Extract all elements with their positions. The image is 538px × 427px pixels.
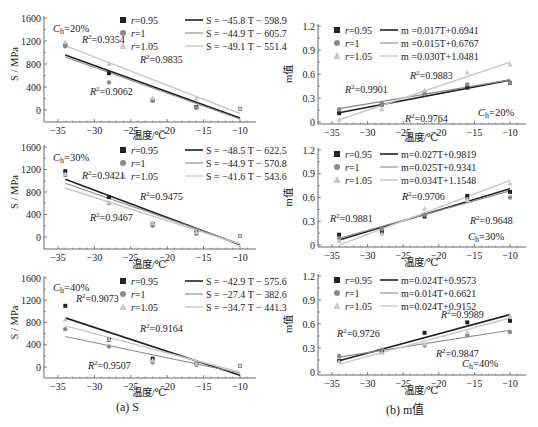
y-tick-label: 0 [36,105,41,116]
legend-circle-icon [120,291,126,297]
legend-label: r=1 [345,162,360,173]
x-tick-label: −10 [502,250,518,261]
y-tick-label: 0.3 [303,343,316,354]
y-tick-label: 0.3 [303,216,316,227]
r-squared-label: R2=0.9835 [139,53,183,65]
y-axis-label: m值 [282,187,294,206]
x-tick-label: −15 [196,381,212,392]
x-axis-label: 温度/℃ [132,386,167,398]
legend-label: r=1.05 [345,51,372,62]
x-tick-label: −10 [502,127,518,138]
x-tick-label: −15 [196,125,212,136]
y-tick-label: 1200 [21,295,41,306]
r-squared-label: R2=0.9706 [401,190,445,202]
legend-square-icon [120,147,126,153]
marker-square [337,111,341,115]
x-tick-label: −30 [87,381,103,392]
x-axis-label: 温度/℃ [132,258,167,270]
marker-circle [107,344,111,348]
marker-circle [422,92,426,96]
y-tick-label: 1.2 [303,145,316,156]
legend-fit-equation: S = −48.5 T − 622.5 [206,145,287,156]
marker-circle [337,107,341,111]
y-tick-label: 800 [26,317,41,328]
legend-circle-icon [334,290,340,296]
y-axis-label: S / MPa [9,305,20,339]
x-tick-label: −15 [196,252,212,263]
legend-label: r=1.05 [131,302,158,313]
legend-label: r=1 [131,158,146,169]
marker-square [508,190,512,194]
marker-circle [380,227,384,231]
legend-label: r=1.05 [345,175,372,186]
r-squared-label: R2=0.9062 [89,85,133,97]
figure-canvas: 040080012001600−35−30−25−20−15−10温度/℃S /… [0,0,538,427]
chart-panel-m_20: 00.30.60.91.2−35−30−25−20−15−10温度/℃m值r=0… [282,21,526,144]
legend-fit-equation: m =0.017T+0.6941 [401,25,479,36]
legend-label: r=1 [131,289,146,300]
legend-fit-equation: S = −44.9 T − 605.7 [206,28,287,39]
r-squared-label: R2=0.9726 [336,327,380,339]
marker-square [423,331,427,335]
y-tick-label: 800 [26,59,41,70]
x-tick-label: −10 [232,125,248,136]
legend-label: r=1 [131,28,146,39]
marker-circle [380,102,384,106]
legend-fit-equation: S = −27.4 T − 382.6 [206,289,287,300]
x-axis-label: 温度/℃ [404,131,439,143]
content-annotation: Ch=30% [468,231,504,244]
marker-square [465,320,469,324]
x-tick-label: −15 [467,378,483,389]
legend-fit-equation: m=0.014T+0.6621 [401,288,476,299]
marker-square [337,233,341,237]
marker-circle [63,327,67,331]
r-squared-label: R2=0.9475 [139,190,183,202]
x-tick-label: −30 [360,378,376,389]
y-tick-label: 1200 [21,36,41,47]
y-tick-label: 1600 [21,273,41,284]
y-tick-label: 0 [36,232,41,243]
legend-fit-equation: S = −45.8 T − 598.9 [206,15,287,26]
r-squared-label: R2=0.9847 [435,347,479,359]
x-tick-label: −35 [50,381,66,392]
y-tick-label: 1.2 [303,21,316,32]
legend-label: r=1.05 [131,41,158,52]
marker-triangle [379,107,384,112]
x-tick-label: −10 [232,252,248,263]
x-tick-label: −35 [324,127,340,138]
legend-label: r=0.95 [345,25,372,36]
legend-square-icon [334,277,340,283]
y-tick-label: 0.9 [303,168,316,179]
chart-panel-S_40: 040080012001600−35−30−25−20−15−10温度/℃S /… [9,273,287,399]
legend-label: r=0.95 [131,145,158,156]
marker-circle [465,82,469,86]
legend-triangle-icon [334,52,341,59]
marker-circle [422,213,426,217]
x-axis-label: 温度/℃ [404,384,439,396]
legend-circle-icon [334,164,340,170]
caption-right: (b) m值 [386,400,424,418]
caption-left: (a) S [116,400,139,415]
legend-square-icon [120,278,126,284]
marker-circle [107,80,111,84]
legend-fit-equation: S = −34.7 T − 441.3 [206,302,287,313]
legend-triangle-icon [120,303,127,310]
marker-circle [337,354,341,358]
r-squared-label: R2=0.9073 [75,292,119,304]
legend-fit-equation: m=0.024T+0.9573 [401,275,476,286]
legend-fit-equation: S = −44.9 T − 570.8 [206,158,287,169]
y-tick-label: 800 [26,187,41,198]
legend-label: r=1 [345,288,360,299]
chart-panel-m_40: 00.30.60.91.2−35−30−25−20−15−10温度/℃m值r=0… [282,271,526,397]
chart-panel-m_30: 00.30.60.91.2−35−30−25−20−15−10温度/℃m值r=0… [282,145,526,269]
r-squared-label: R2=0.9354 [81,33,125,45]
chart-panel-S_30: 040080012001600−35−30−25−20−15−10温度/℃S /… [9,142,287,271]
legend-fit-equation: m=0.025T+0.9341 [401,162,476,173]
y-axis-label: S / MPa [9,175,20,209]
x-axis-label: 温度/℃ [132,129,167,141]
x-tick-label: −30 [360,127,376,138]
legend-label: r=0.95 [131,276,158,287]
legend-label: r=1.05 [345,301,372,312]
y-tick-label: 0 [36,362,41,373]
x-tick-label: −35 [50,125,66,136]
